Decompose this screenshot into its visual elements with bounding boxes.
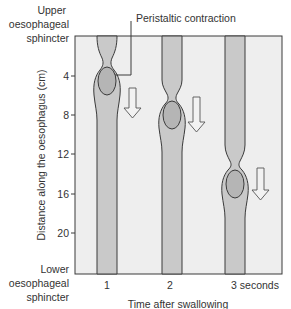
x-tick-3: 3 seconds [231, 279, 279, 291]
lower-sphincter-label-line-2: oesophageal [9, 277, 69, 289]
lower-sphincter-label-line-3: sphincter [26, 291, 69, 303]
upper-sphincter-label-line-3: sphincter [26, 32, 69, 44]
y-tick-8: 8 [63, 109, 69, 121]
y-tick-20: 20 [57, 227, 69, 239]
x-tick-2: 2 [167, 279, 173, 291]
peristaltic-contraction-label: Peristaltic contraction [136, 12, 236, 24]
y-tick-16: 16 [57, 188, 69, 200]
upper-sphincter-label-line-2: oesophageal [9, 18, 69, 30]
oesophagus-tube-2 [159, 36, 186, 274]
x-tick-1: 1 [104, 279, 110, 291]
x-axis-label: Time after swallowing [128, 298, 229, 309]
food-bolus-2 [163, 101, 181, 129]
y-axis: 4 8 12 16 20 [57, 70, 75, 239]
food-bolus-3 [226, 170, 244, 198]
y-tick-4: 4 [63, 70, 69, 82]
food-bolus-1 [98, 67, 116, 95]
upper-sphincter-label-line-1: Upper [37, 4, 66, 16]
lower-sphincter-label-line-1: Lower [40, 263, 69, 275]
oesophagus-peristalsis-diagram: Peristaltic contraction Upper oesophagea… [0, 0, 291, 309]
y-axis-label: Distance along the oesophagus (cm) [35, 69, 47, 240]
y-tick-12: 12 [57, 148, 69, 160]
